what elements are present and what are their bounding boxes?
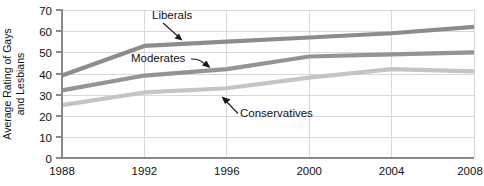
xtick-label-2008: 2008 (457, 165, 483, 177)
annotation-label-liberals: Liberals (152, 9, 193, 21)
ytick-label-0: 0 (46, 153, 52, 165)
ytick-label-40: 40 (39, 69, 52, 81)
annotation-label-conservatives: Conservatives (240, 107, 313, 119)
ytick-label-10: 10 (39, 132, 52, 144)
annotation-label-moderates: Moderates (131, 52, 186, 64)
y-axis-tick-labels: 70 60 50 40 30 20 10 0 (39, 5, 52, 165)
ytick-label-50: 50 (39, 47, 52, 59)
ytick-label-60: 60 (39, 26, 52, 38)
xtick-label-1988: 1988 (49, 165, 75, 177)
ytick-label-30: 30 (39, 90, 52, 102)
xtick-label-1992: 1992 (132, 165, 158, 177)
xtick-label-1996: 1996 (214, 165, 240, 177)
line-chart: 70 60 50 40 30 20 10 0 1988 1992 1996 20… (0, 0, 484, 186)
ytick-label-70: 70 (39, 5, 52, 17)
y-axis-title-line-2: and Lesbians (14, 53, 26, 115)
chart-canvas: 70 60 50 40 30 20 10 0 1988 1992 1996 20… (0, 0, 484, 186)
y-axis-tick-marks (56, 10, 62, 158)
y-axis-title-line-1: Average Rating of Gays (1, 28, 13, 139)
xtick-label-2000: 2000 (296, 165, 322, 177)
y-axis-title: Average Rating of Gays and Lesbians (1, 28, 26, 139)
ytick-label-20: 20 (39, 111, 52, 123)
x-axis-tick-labels: 1988 1992 1996 2000 2004 2008 (49, 165, 483, 177)
xtick-label-2004: 2004 (379, 165, 405, 177)
